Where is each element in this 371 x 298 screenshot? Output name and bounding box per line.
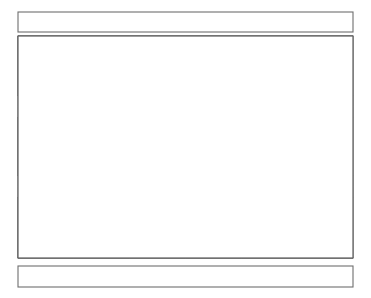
bottom-banner-rect	[18, 266, 353, 287]
figure-container	[0, 0, 371, 298]
panel-outline	[18, 36, 353, 258]
bottom-banner	[18, 266, 353, 287]
pattern-diagram	[0, 0, 371, 298]
main-pattern-panel	[18, 36, 353, 258]
top-banner	[18, 12, 353, 32]
top-banner-rect	[18, 12, 353, 32]
